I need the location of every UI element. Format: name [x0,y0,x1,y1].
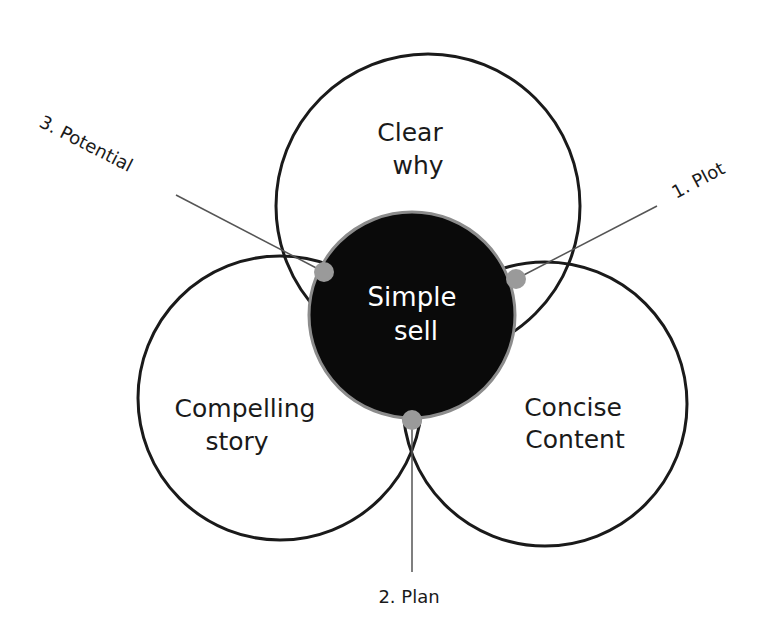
label-clear: Clear [377,118,443,147]
label-concise: Concise [524,393,622,422]
label-story: story [205,427,268,456]
dot-plot [506,269,526,289]
center-circle-simple-sell [309,212,515,418]
callout-potential: 3. Potential [36,111,136,176]
label-why: why [392,151,443,180]
dot-plan [402,410,422,430]
callout-plan: 2. Plan [378,586,439,607]
venn-diagram: Clear why Compelling story Concise Conte… [0,0,776,634]
callout-plot: 1. Plot [668,157,728,202]
label-content: Content [525,425,625,454]
label-sell: sell [394,316,438,346]
label-compelling: Compelling [175,394,316,423]
dot-potential [314,262,334,282]
label-simple: Simple [368,282,457,312]
